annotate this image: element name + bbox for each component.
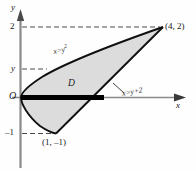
point-label-4-2: (4, 2) [165,21,185,31]
y-tick-neg1: –1 [5,127,14,137]
x-axis-label: x [176,100,180,110]
origin-label: O [9,90,16,101]
figure-container: y x O 2 y –1 (4, 2) (1, –1) x=y2 x=y+2 D [0,0,196,172]
point-label-1-neg1: (1, –1) [42,137,66,147]
region-label-d: D [68,78,75,88]
shaded-region-d [21,27,163,134]
y-tick-2: 2 [10,21,15,31]
y-axis-arrow-icon [17,9,24,21]
y-axis-label: y [11,2,15,12]
y-tick-y: y [11,63,15,73]
